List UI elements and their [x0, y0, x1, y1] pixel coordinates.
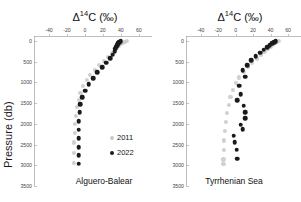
- x-tick-label: 40: [268, 27, 274, 33]
- data-point: [232, 134, 237, 139]
- data-point: [235, 156, 240, 161]
- y-tick-label: 2500: [168, 142, 184, 148]
- data-point: [225, 111, 229, 115]
- data-point: [239, 92, 244, 97]
- y-tick-mark: [186, 186, 189, 187]
- x-tick-mark: [218, 34, 219, 36]
- x-tick-label: -40: [197, 27, 205, 33]
- data-point: [227, 103, 231, 107]
- y-tick-mark: [186, 103, 189, 104]
- x-tick-label: 60: [285, 27, 291, 33]
- data-point: [222, 138, 226, 142]
- x-tick-mark: [201, 34, 202, 36]
- y-tick-label: 3500: [168, 183, 184, 189]
- data-point: [240, 68, 245, 73]
- data-point: [241, 103, 246, 108]
- y-tick-mark: [186, 62, 189, 63]
- x-axis-title-rest: C (‰): [233, 11, 262, 23]
- data-point: [223, 129, 227, 133]
- x-tick-label: -20: [214, 27, 222, 33]
- data-point: [243, 74, 248, 79]
- figure-canvas: Pressure (db) Δ14C (‰)-40-20020406005001…: [0, 0, 301, 202]
- data-point: [237, 75, 241, 79]
- y-tick-mark: [186, 41, 189, 42]
- data-point: [234, 147, 239, 152]
- x-axis-title: Δ14C (‰): [180, 9, 300, 23]
- data-point: [243, 110, 248, 115]
- delta-symbol: Δ: [217, 11, 224, 23]
- data-point: [243, 116, 248, 121]
- y-tick-label: 2000: [168, 121, 184, 127]
- x-tick-label: 20: [250, 27, 256, 33]
- isotope-superscript: 14: [225, 9, 233, 18]
- data-point: [237, 83, 242, 88]
- data-point: [231, 88, 235, 92]
- data-point: [221, 162, 225, 166]
- data-point: [240, 127, 245, 132]
- chart-panel-tyrrhenian-sea: Δ14C (‰)-40-2002040600500100015002000250…: [0, 0, 301, 202]
- y-tick-label: 1500: [168, 100, 184, 106]
- data-point: [249, 58, 254, 63]
- data-point: [224, 120, 228, 124]
- x-tick-mark: [288, 34, 289, 36]
- data-point: [258, 50, 263, 55]
- data-point: [228, 95, 232, 99]
- y-tick-mark: [186, 165, 189, 166]
- data-point: [253, 54, 258, 59]
- data-point: [232, 140, 237, 145]
- y-axis-line: [186, 36, 187, 186]
- y-tick-label: 500: [168, 59, 184, 65]
- y-tick-mark: [186, 82, 189, 83]
- x-tick-mark: [253, 34, 254, 36]
- y-tick-mark: [186, 124, 189, 125]
- y-tick-label: 3000: [168, 162, 184, 168]
- data-point: [245, 63, 250, 68]
- x-tick-mark: [271, 34, 272, 36]
- y-tick-label: 0: [168, 38, 184, 44]
- panel-title: Tyrrhenian Sea: [205, 176, 263, 186]
- data-point: [222, 148, 226, 152]
- data-point: [235, 98, 240, 103]
- x-tick-mark: [236, 34, 237, 36]
- y-tick-mark: [186, 145, 189, 146]
- y-tick-label: 1000: [168, 79, 184, 85]
- x-tick-label: 0: [234, 27, 237, 33]
- x-axis-line: [186, 36, 301, 37]
